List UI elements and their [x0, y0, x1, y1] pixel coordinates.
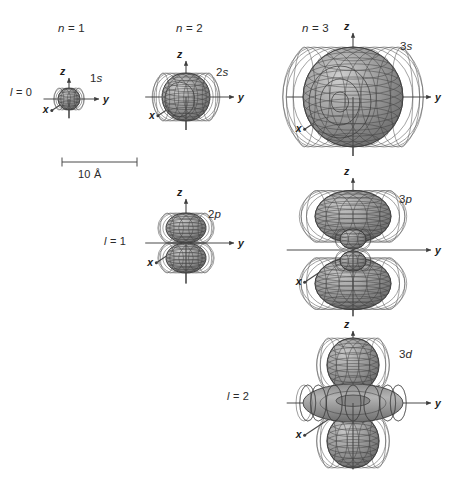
column-header-n3: n = 3: [302, 22, 329, 34]
axis-label-x-3p: x: [296, 275, 302, 287]
axis-label-z-2s: z: [177, 48, 182, 60]
axis-label-y-3d: y: [435, 397, 441, 409]
scale-bar-label: 10 Å: [78, 168, 101, 180]
orbital-artwork: [0, 0, 458, 483]
axis-label-y-3s: y: [435, 91, 441, 103]
axis-label-z-2p: z: [177, 186, 182, 198]
orbital-label-2s: 2s: [216, 66, 229, 78]
row-label-l1: l = 1: [104, 235, 126, 247]
orbital-diagram: n = 1 n = 2 n = 3 l = 0 l = 1 l = 2 1s 2…: [0, 0, 458, 483]
orbital-label-3s: 3s: [400, 40, 413, 52]
axis-label-y-2s: y: [238, 91, 244, 103]
axis-label-y-1s: y: [103, 93, 109, 105]
orbital-1s: [44, 78, 100, 118]
row-label-l0: l = 0: [10, 86, 32, 98]
axis-label-z-3d: z: [344, 318, 349, 330]
axis-label-x-3s: x: [296, 122, 302, 134]
orbital-label-3d: 3d: [399, 348, 412, 360]
axis-label-x-2s: x: [149, 109, 155, 121]
axis-label-x-3d: x: [296, 428, 302, 440]
orbital-label-3p: 3p: [399, 193, 412, 205]
orbital-label-2p: 2p: [208, 208, 221, 220]
axis-label-z-3p: z: [344, 165, 349, 177]
orbital-label-1s: 1s: [90, 72, 103, 84]
scale-bar: [62, 158, 137, 167]
axis-label-x-2p: x: [147, 256, 153, 268]
axis-label-z-1s: z: [60, 65, 65, 77]
axis-label-x-1s: x: [43, 103, 49, 115]
orbital-torus-3d: [296, 384, 406, 422]
column-header-n2: n = 2: [176, 22, 203, 34]
axis-label-y-3p: y: [435, 244, 441, 256]
axis-label-z-3s: z: [344, 20, 349, 32]
axis-label-y-2p: y: [238, 237, 244, 249]
row-label-l2: l = 2: [227, 390, 249, 402]
column-header-n1: n = 1: [58, 22, 85, 34]
